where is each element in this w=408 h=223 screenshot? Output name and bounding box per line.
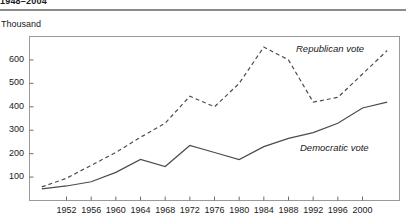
- series-label-democratic-vote: Democratic vote: [300, 142, 369, 153]
- plot-area: 100200300400500600 195219561960196419681…: [0, 0, 408, 223]
- y-tick-label: 500: [2, 77, 24, 87]
- series-label-republican-vote: Republican vote: [296, 43, 364, 54]
- y-axis-ticks: [30, 60, 34, 177]
- x-tick-label: 2000: [348, 205, 378, 215]
- plot-frame: [30, 37, 400, 201]
- x-axis-ticks: [67, 197, 363, 201]
- y-tick-label: 300: [2, 124, 24, 134]
- y-tick-label: 600: [2, 54, 24, 64]
- y-tick-label: 200: [2, 148, 24, 158]
- y-tick-label: 400: [2, 101, 24, 111]
- y-tick-label: 100: [2, 171, 24, 181]
- series-line-republican-vote: [42, 47, 387, 187]
- chart-canvas: [0, 0, 408, 223]
- chart-figure: 1948–2004 Thousand 100200300400500600 19…: [0, 0, 408, 223]
